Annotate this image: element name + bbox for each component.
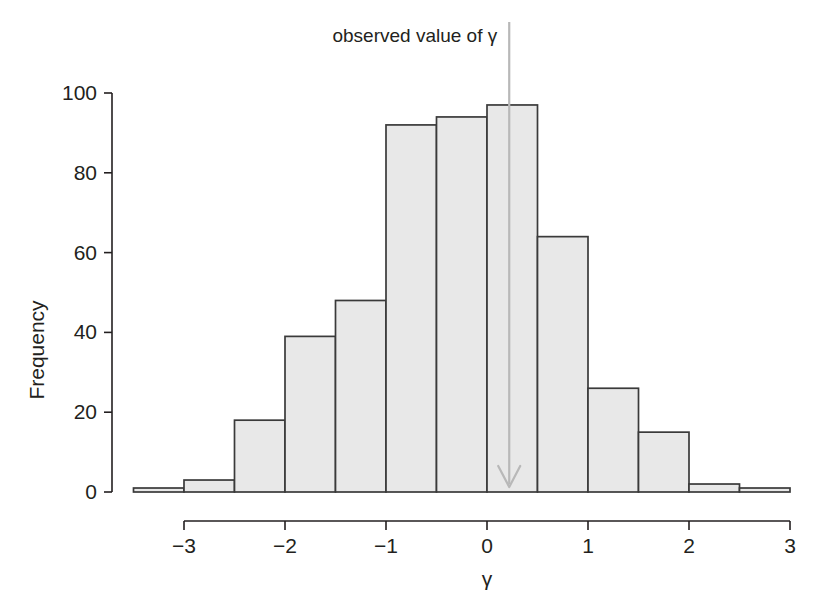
- x-axis: −3−2−10123: [172, 521, 796, 557]
- y-axis-tick-label: 60: [74, 241, 97, 264]
- y-axis-title: Frequency: [25, 300, 48, 400]
- x-axis-tick-label: −3: [172, 534, 196, 557]
- y-axis-tick-label: 100: [62, 81, 97, 104]
- histogram-bar: [437, 117, 488, 492]
- histogram-bar: [487, 105, 538, 492]
- histogram-bar: [184, 480, 235, 492]
- y-axis-tick-label: 40: [74, 320, 97, 343]
- y-axis: 020406080100: [62, 81, 112, 503]
- x-axis-title: γ: [482, 567, 493, 590]
- x-axis-tick-label: 1: [582, 534, 594, 557]
- histogram-bars: [134, 105, 791, 492]
- x-axis-tick-label: 0: [481, 534, 493, 557]
- x-axis-tick-label: 2: [683, 534, 695, 557]
- histogram-bar: [639, 432, 690, 492]
- histogram-bar: [740, 488, 791, 492]
- histogram-bar: [386, 125, 437, 492]
- histogram-bar: [285, 336, 336, 492]
- histogram-figure: 020406080100 −3−2−10123 Frequency γ obse…: [0, 0, 820, 606]
- x-axis-tick-label: −1: [374, 534, 398, 557]
- x-axis-tick-label: 3: [784, 534, 796, 557]
- histogram-bar: [235, 420, 286, 492]
- y-axis-tick-label: 80: [74, 161, 97, 184]
- histogram-bar: [336, 300, 387, 492]
- histogram-plot: 020406080100 −3−2−10123 Frequency γ obse…: [0, 0, 820, 606]
- y-axis-tick-label: 20: [74, 400, 97, 423]
- histogram-bar: [588, 388, 639, 492]
- histogram-bar: [134, 488, 185, 492]
- x-axis-tick-label: −2: [273, 534, 297, 557]
- y-axis-tick-label: 0: [85, 480, 97, 503]
- histogram-bar: [689, 484, 740, 492]
- observed-value-label: observed value of γ: [332, 25, 497, 46]
- histogram-bar: [538, 237, 589, 492]
